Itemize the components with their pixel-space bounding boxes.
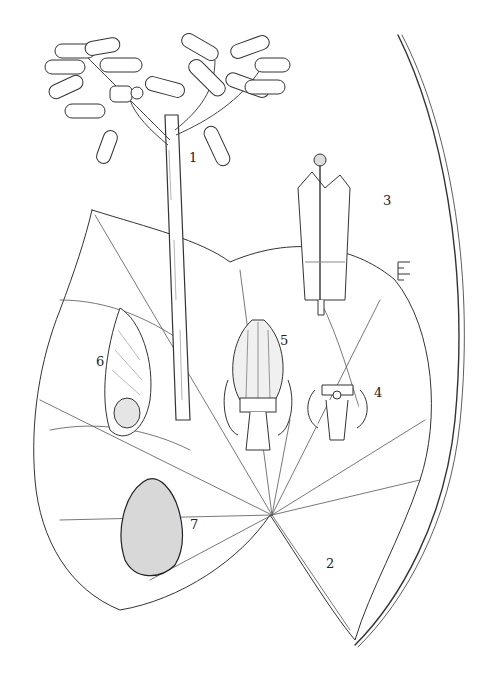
flower-base	[308, 385, 367, 440]
inflorescence-stem	[165, 115, 190, 420]
figure-label-3: 3	[383, 194, 391, 207]
figure-label-2: 2	[326, 557, 334, 570]
scale-bar	[398, 262, 410, 280]
figure-label-4: 4	[374, 386, 382, 399]
plate-drawing	[0, 0, 481, 673]
stippled-seed	[121, 479, 182, 576]
flower-section	[298, 154, 350, 315]
leaf-veins	[40, 215, 425, 630]
figure-label-6: 6	[96, 355, 104, 368]
figure-label-5: 5	[280, 334, 288, 347]
leaf-outline	[34, 210, 432, 640]
figure-label-1: 1	[189, 151, 197, 164]
petiole	[355, 35, 459, 645]
winged-seed	[105, 308, 151, 436]
figure-label-7: 7	[190, 518, 198, 531]
botanical-plate: 1 2 3 4 5 6 7	[0, 0, 481, 673]
